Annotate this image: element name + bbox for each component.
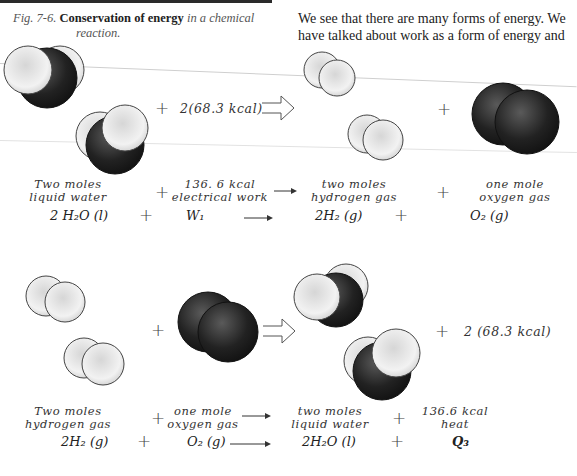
plus-sign: +: [151, 320, 165, 340]
body-paragraph: We see that there are many forms of ener…: [298, 10, 573, 44]
energy-input: 2(68.3 kcal): [180, 101, 263, 116]
figure-title-rest: in a chemical: [187, 11, 254, 25]
plus-sign: +: [155, 182, 169, 202]
oxygen-molecule-icon: [465, 78, 565, 158]
arrow-icon: [242, 412, 272, 420]
label-line: liquid water: [280, 418, 380, 431]
label-line: oxygen gas: [158, 418, 248, 431]
eq-product2: Q₃: [452, 434, 469, 449]
arrow-icon: [274, 187, 298, 195]
hydrogen-molecule-icon: [300, 48, 360, 103]
arrow-icon: [230, 440, 272, 448]
eq-reactant1: 2 H₂O (l): [50, 208, 108, 223]
label-line: oxygen gas: [465, 191, 565, 204]
label-product1: two moles hydrogen gas: [304, 178, 404, 204]
eq-product1: 2H₂ (g): [315, 208, 362, 223]
plus-sign: +: [437, 99, 451, 119]
figure-title-bold: Conservation of energy: [60, 11, 184, 25]
plus-sign: +: [436, 182, 450, 202]
plus-sign: +: [394, 205, 408, 225]
label-product1: two moles liquid water: [280, 405, 380, 431]
water-molecule-icon: [70, 100, 150, 180]
body-line-1: We see that there are many forms of ener…: [298, 10, 573, 27]
plus-sign: +: [392, 408, 406, 428]
hydrogen-molecule-icon: [343, 108, 408, 168]
energy-output: 2 (68.3 kcal): [464, 324, 551, 339]
plus-sign: +: [155, 98, 169, 118]
eq-product2: O₂ (g): [470, 208, 508, 223]
label-reactant2: one mole oxygen gas: [158, 405, 248, 431]
label-line: electrical work: [170, 191, 270, 204]
label-reactant1: Two moles hydrogen gas: [18, 405, 118, 431]
label-product2: one mole oxygen gas: [465, 178, 565, 204]
plus-sign: +: [139, 205, 153, 225]
water-molecule-icon: [340, 325, 420, 405]
figure-label: Fig. 7-6.: [13, 11, 56, 25]
eq-reactant1: 2H₂ (g): [61, 434, 108, 449]
eq-reactant2: W₁: [186, 208, 205, 223]
oxygen-molecule-icon: [172, 290, 262, 370]
body-line-2: have talked about work as a form of ener…: [298, 27, 573, 44]
figure-title-line2: reaction.: [13, 26, 263, 41]
figure-caption: Fig. 7-6. Conservation of energy in a ch…: [13, 11, 263, 41]
eq-product1: 2H₂O (l): [302, 434, 356, 449]
top-rule: [0, 0, 272, 3]
hydrogen-molecule-icon: [60, 332, 130, 392]
arrow-icon: [244, 214, 274, 222]
label-line: liquid water: [18, 191, 118, 204]
reaction-arrow-icon: [261, 95, 296, 121]
plus-sign: +: [137, 431, 151, 451]
eq-reactant2: O₂ (g): [187, 434, 225, 449]
plus-sign: +: [435, 321, 449, 341]
label-line: hydrogen gas: [18, 418, 118, 431]
plus-sign: +: [390, 431, 404, 451]
label-line: hydrogen gas: [304, 191, 404, 204]
label-reactant1: Two moles liquid water: [18, 178, 118, 204]
label-line: heat: [410, 418, 500, 431]
label-reactant2: 136. 6 kcal electrical work: [170, 178, 270, 204]
label-product2: 136.6 kcal heat: [410, 405, 500, 431]
hydrogen-molecule-icon: [20, 270, 90, 330]
